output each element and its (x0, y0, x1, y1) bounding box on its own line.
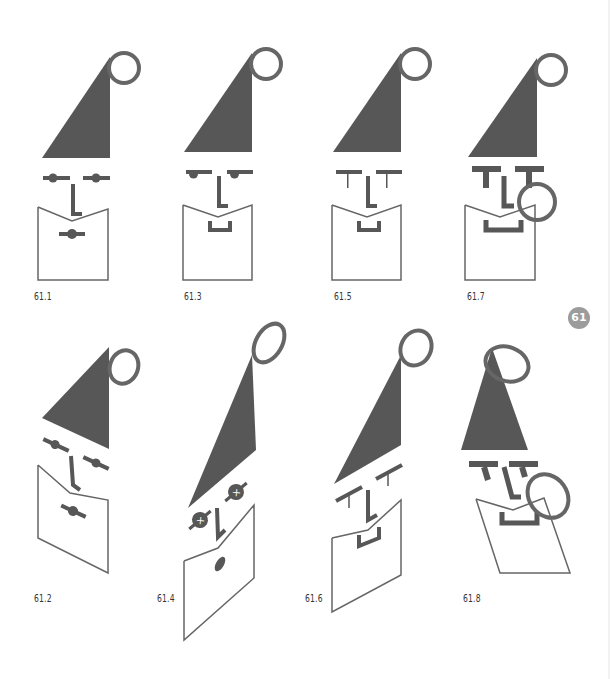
hat-pompom-ring (395, 325, 437, 370)
beard-box (476, 498, 570, 573)
nose (368, 176, 377, 206)
illustration-plate: × × (0, 0, 610, 679)
left-eye: × (184, 505, 216, 535)
nose (217, 508, 225, 537)
beard-box (38, 207, 108, 280)
right-eye (227, 170, 253, 179)
hat-pompom-ring (247, 318, 291, 367)
left-eye (336, 487, 362, 508)
beard-box (332, 205, 401, 280)
nose (71, 456, 80, 490)
figure-label-61-7: 61.7 (467, 291, 485, 302)
beard-box (183, 205, 252, 280)
mouth (486, 220, 521, 230)
right-eye: × (220, 477, 252, 507)
figure-label-61-8: 61.8 (463, 593, 481, 604)
nose (504, 176, 514, 206)
figure-61-3 (183, 49, 281, 280)
left-eye (469, 461, 498, 480)
figure-61-1 (38, 53, 139, 280)
hat (333, 53, 401, 152)
hat (461, 348, 528, 450)
hat (42, 57, 110, 158)
hat (184, 53, 252, 152)
figure-61-2 (38, 346, 143, 573)
figure-label-61-5: 61.5 (334, 291, 352, 302)
right-eye (376, 170, 402, 188)
hat (42, 347, 109, 449)
monocle-ring (519, 184, 555, 220)
left-eye (41, 435, 70, 455)
right-eye (509, 461, 538, 477)
right-eye (83, 174, 110, 183)
figure-61-7 (465, 55, 566, 280)
nose (219, 176, 228, 206)
hat-pompom-ring (536, 55, 566, 85)
mouth (502, 512, 537, 523)
figure-label-61-3: 61.3 (184, 291, 202, 302)
figure-61-8 (461, 341, 577, 573)
mouth (59, 229, 85, 239)
nose (73, 184, 82, 214)
hat-pompom-ring (251, 49, 281, 79)
right-eye (81, 453, 110, 473)
figure-label-61-1: 61.1 (34, 291, 52, 302)
figure-label-61-4: 61.4 (157, 593, 175, 604)
mouth (59, 501, 88, 521)
nose (504, 467, 521, 497)
mouth (213, 555, 228, 573)
chapter-badge: 61 (568, 307, 590, 329)
left-eye (186, 170, 212, 179)
hat-pompom-ring (105, 346, 143, 388)
figure-label-61-6: 61.6 (305, 593, 323, 604)
hat (468, 58, 537, 157)
left-eye (43, 174, 70, 183)
figure-61-5 (332, 49, 430, 280)
nose (368, 490, 377, 520)
figure-61-4: × × (184, 318, 291, 640)
figure-61-6 (332, 325, 437, 612)
mouth (210, 221, 230, 230)
hat-pompom-ring (109, 53, 139, 83)
figure-label-61-2: 61.2 (34, 593, 52, 604)
right-eye (376, 465, 402, 486)
hat (334, 355, 401, 484)
left-eye (336, 170, 362, 188)
hat-pompom-ring (400, 49, 430, 79)
mouth (359, 221, 379, 230)
left-eye (472, 166, 501, 188)
monocle-ring (519, 466, 577, 525)
